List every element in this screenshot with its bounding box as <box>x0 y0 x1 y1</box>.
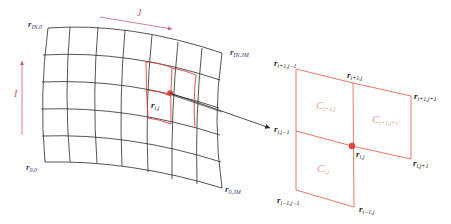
label-r-im1-j: ri−1,j <box>359 204 375 215</box>
cell-label-ip1-jp1: Ci+1,j+1 <box>372 113 398 126</box>
cell-label-ip1-j: Ci+1,j <box>316 99 336 112</box>
label-r-im1-jm1: ri−1,j−1 <box>277 195 299 206</box>
j-axis: J <box>100 7 172 29</box>
stencil-diagram <box>296 69 411 207</box>
label-r-ip1-jp1: ri+1,j+1 <box>414 91 436 102</box>
label-r-i-j: ri,j <box>356 149 365 160</box>
stencil-point-ij-marker-icon <box>349 143 355 149</box>
label-r-i-jp1: ri,j+1 <box>413 158 428 169</box>
zoom-arrow-icon <box>170 93 270 128</box>
cell-label-i-j: Ci,j <box>317 162 330 175</box>
label-r-ip1-jm1: ri+1,j−1 <box>274 58 296 69</box>
diagram-canvas: J I rIN,0 rIN,JM r0, <box>0 0 451 224</box>
i-axis: I <box>13 61 22 135</box>
point-label-ij: ri,j <box>151 100 160 111</box>
corner-label-bottom-right: r0,JM <box>225 184 242 195</box>
corner-label-top-right: rIN,JM <box>230 47 250 58</box>
corner-label-bottom-left: r0,0 <box>26 162 37 173</box>
curvilinear-grid <box>41 27 222 188</box>
label-r-i-jm1: ri,j−1 <box>274 124 289 135</box>
i-axis-label: I <box>13 88 18 99</box>
j-axis-arrow-icon <box>100 17 172 29</box>
j-axis-label: J <box>137 7 142 18</box>
corner-label-top-left: rIN,0 <box>28 19 42 30</box>
label-r-ip1-j: ri+1,j <box>347 70 363 81</box>
